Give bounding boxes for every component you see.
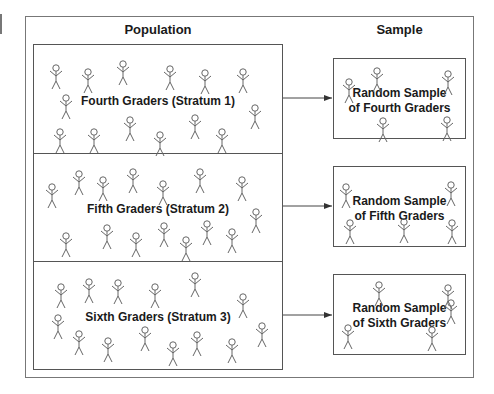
stick-figure-icon (60, 233, 72, 257)
stick-figure-icon (54, 129, 66, 153)
stick-figure-icon (216, 129, 228, 153)
stick-figure-icon (398, 219, 410, 243)
stick-figure-icon (373, 282, 385, 306)
stick-figure-icon (157, 181, 169, 205)
stick-figure-icon (73, 171, 85, 195)
stick-figures-layer (0, 0, 494, 394)
stick-figure-icon (340, 184, 352, 208)
stick-figure-icon (441, 117, 453, 141)
stick-figure-icon (46, 184, 58, 208)
stick-figure-icon (154, 132, 166, 156)
stick-figure-icon (226, 339, 238, 363)
sample-stratum-3-figures (342, 282, 457, 351)
stick-figure-icon (164, 66, 176, 90)
stick-figure-icon (194, 169, 206, 193)
stick-figure-icon (117, 61, 129, 85)
stick-figure-icon (344, 220, 356, 244)
stick-figure-icon (52, 315, 64, 339)
stick-figure-icon (442, 71, 454, 95)
stick-figure-icon (167, 342, 179, 366)
stick-figure-icon (83, 279, 95, 303)
stick-figure-icon (112, 280, 124, 304)
stick-figure-icon (426, 327, 438, 351)
stick-figure-icon (199, 70, 211, 94)
stick-figure-icon (189, 115, 201, 139)
stick-figure-icon (446, 220, 458, 244)
stick-figure-icon (249, 105, 261, 129)
stick-figure-icon (180, 237, 192, 261)
stick-figure-icon (191, 332, 203, 356)
stick-figure-icon (256, 323, 268, 347)
stick-figure-icon (237, 294, 249, 318)
stick-figure-icon (342, 325, 354, 349)
stick-figure-icon (60, 95, 72, 119)
stick-figure-icon (343, 79, 355, 103)
stick-figure-icon (101, 225, 113, 249)
stick-figure-icon (371, 68, 383, 92)
stick-figure-icon (189, 273, 201, 297)
stick-figure-icon (445, 182, 457, 206)
stick-figure-icon (226, 229, 238, 253)
population-stratum-1-figures (50, 61, 261, 156)
stick-figure-icon (236, 177, 248, 201)
stick-figure-icon (50, 65, 62, 89)
stick-figure-icon (88, 129, 100, 153)
stick-figure-icon (377, 118, 389, 142)
sample-stratum-2-figures (340, 182, 458, 244)
stick-figure-icon (55, 284, 67, 308)
stick-figure-icon (201, 221, 213, 245)
sample-stratum-1-figures (343, 68, 454, 142)
stick-figure-icon (124, 117, 136, 141)
stick-figure-icon (250, 209, 262, 233)
stick-figure-icon (149, 284, 161, 308)
stick-figure-icon (442, 285, 454, 309)
stick-figure-icon (82, 69, 94, 93)
stick-figure-icon (158, 223, 170, 247)
population-stratum-2-figures (46, 169, 262, 261)
population-stratum-3-figures (52, 273, 268, 366)
stick-figure-icon (97, 177, 109, 201)
stick-figure-icon (237, 69, 249, 93)
stick-figure-icon (139, 327, 151, 351)
stick-figure-icon (130, 233, 142, 257)
stick-figure-icon (73, 331, 85, 355)
stick-figure-icon (102, 338, 114, 362)
stick-figure-icon (127, 169, 139, 193)
